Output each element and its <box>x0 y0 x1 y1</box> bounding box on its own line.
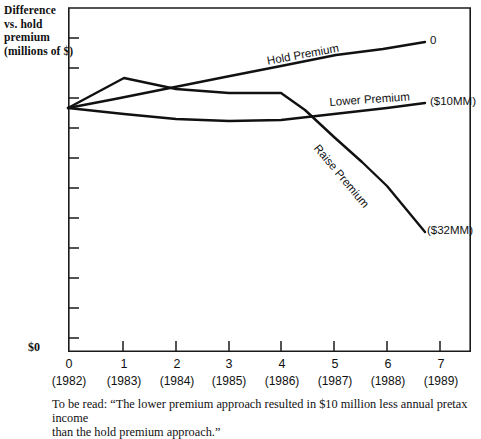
x-tick-year-7: (1989) <box>401 374 481 388</box>
figure-caption-line-2: than the hold premium approach.” <box>52 425 477 439</box>
figure-caption-line-1: To be read: “The lower premium approach … <box>52 397 477 425</box>
y-axis-ticks <box>69 38 79 338</box>
series-end-value-hold-premium: 0 <box>430 34 436 46</box>
series-end-value-raise-premium: ($32MM) <box>427 224 473 236</box>
figure-caption: To be read: “The lower premium approach … <box>52 397 477 439</box>
series-end-value-lower-premium: ($10MM) <box>430 95 476 107</box>
series-line-lower-premium <box>68 103 425 121</box>
x-axis-ticks <box>123 341 440 351</box>
x-tick-number-7: 7 <box>401 357 481 371</box>
